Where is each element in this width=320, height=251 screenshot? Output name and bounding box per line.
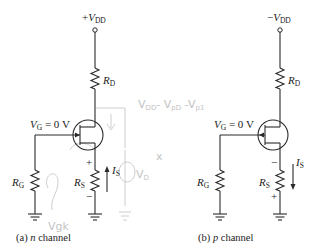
arrow-up-icon bbox=[105, 166, 110, 172]
supply-label: −VDD bbox=[267, 11, 291, 25]
current-label: IS bbox=[295, 156, 304, 170]
circuit-diagram: VDD- VpD -Vp1 VD x Vgk +VDD RD VG = 0 V bbox=[0, 0, 320, 251]
n-channel-circuit: +VDD RD VG = 0 V RG RS + bbox=[11, 11, 120, 244]
gate-resistor bbox=[216, 170, 224, 191]
polarity-plus: + bbox=[86, 156, 92, 168]
supply-terminal bbox=[93, 28, 97, 32]
source-resistor bbox=[276, 170, 284, 191]
source-resistor-label: RS bbox=[258, 176, 270, 190]
gate-resistor-label: RG bbox=[196, 176, 210, 190]
drain-resistor-label: RD bbox=[102, 74, 116, 88]
caption-n-channel: (a) n channel bbox=[16, 232, 71, 244]
handwritten-x: x bbox=[156, 150, 163, 163]
p-channel-circuit: −VDD RD VG = 0 V RG RS − + bbox=[196, 11, 304, 244]
polarity-minus: − bbox=[86, 190, 92, 202]
gate-voltage-label: VG = 0 V bbox=[30, 118, 70, 132]
handwritten-vd: VD bbox=[136, 168, 149, 182]
supply-label: +VDD bbox=[82, 11, 106, 25]
handwritten-loop bbox=[119, 162, 135, 182]
gate-voltage-label: VG = 0 V bbox=[214, 118, 254, 132]
gate-resistor-label: RG bbox=[11, 176, 25, 190]
current-label: IS bbox=[111, 164, 120, 178]
polarity-plus: + bbox=[271, 190, 277, 202]
source-resistor bbox=[91, 170, 99, 191]
ground-icon bbox=[273, 214, 287, 220]
handwritten-annotations: VDD- VpD -Vp1 VD x Vgk bbox=[47, 98, 205, 233]
gate-arrow-icon bbox=[75, 133, 80, 138]
handwritten-wire bbox=[119, 150, 131, 220]
handwritten-equation: VDD- VpD -Vp1 bbox=[138, 98, 204, 112]
handwritten-scribble bbox=[47, 174, 59, 210]
drain-resistor bbox=[276, 68, 284, 89]
arrow-down-icon bbox=[291, 184, 296, 190]
polarity-minus: − bbox=[271, 156, 277, 168]
ground-icon bbox=[28, 214, 42, 220]
drain-resistor bbox=[91, 68, 99, 89]
caption-p-channel: (b) p channel bbox=[198, 232, 253, 244]
ground-icon bbox=[88, 214, 102, 220]
ground-icon bbox=[213, 214, 227, 220]
drain-resistor-label: RD bbox=[287, 74, 301, 88]
gate-arrow-icon bbox=[259, 133, 264, 138]
source-resistor-label: RS bbox=[73, 176, 85, 190]
supply-terminal bbox=[278, 28, 282, 32]
gate-resistor bbox=[31, 170, 39, 191]
handwritten-box bbox=[96, 108, 125, 148]
